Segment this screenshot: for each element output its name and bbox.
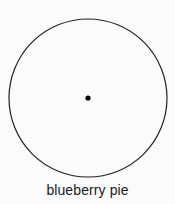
figure-container: blueberry pie — [0, 0, 175, 204]
center-point-dot — [85, 95, 90, 100]
caption-area: blueberry pie — [0, 182, 175, 204]
figure-caption: blueberry pie — [46, 182, 128, 199]
circle-diagram — [0, 0, 175, 182]
diagram-area — [0, 0, 175, 182]
